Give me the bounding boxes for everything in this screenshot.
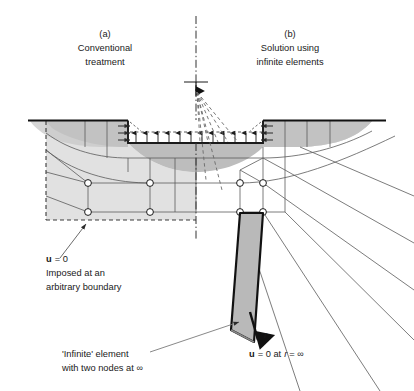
left-bc-equals: = 0 [55, 254, 68, 264]
panel-a-title-line2: treatment [85, 57, 125, 67]
svg-text:u= 0 atr= ∞: u= 0 atr= ∞ [249, 349, 304, 359]
figure-infinite-elements: (a) Conventional treatment (b) Solution … [0, 0, 414, 391]
infinite-element-line2: with two nodes at ∞ [61, 363, 143, 373]
node-marker [85, 209, 92, 216]
panel-b-title-line1: Solution using [261, 43, 319, 53]
left-bc-symbol: u [46, 254, 52, 264]
node-marker [237, 180, 244, 187]
panel-a-tag: (a) [99, 29, 110, 39]
far-field-symbol: u [249, 349, 255, 359]
node-marker [85, 180, 92, 187]
node-marker [147, 180, 154, 187]
node-marker [147, 209, 154, 216]
far-field-rest: = 0 at [258, 349, 282, 359]
svg-text:u= 0: u= 0 [46, 254, 68, 264]
infinite-element-line1: 'Infinite' element [62, 349, 129, 359]
node-marker [260, 180, 267, 187]
panel-b-tag: (b) [284, 29, 295, 39]
panel-a-title-line1: Conventional [78, 43, 132, 53]
far-field-tail: = ∞ [289, 349, 304, 359]
left-bc-line3: arbitrary boundary [46, 282, 122, 292]
panel-b-title-line2: infinite elements [256, 57, 324, 67]
left-bc-line2: Imposed at an [46, 268, 105, 278]
far-field-condition: u= 0 atr= ∞ [249, 349, 304, 359]
